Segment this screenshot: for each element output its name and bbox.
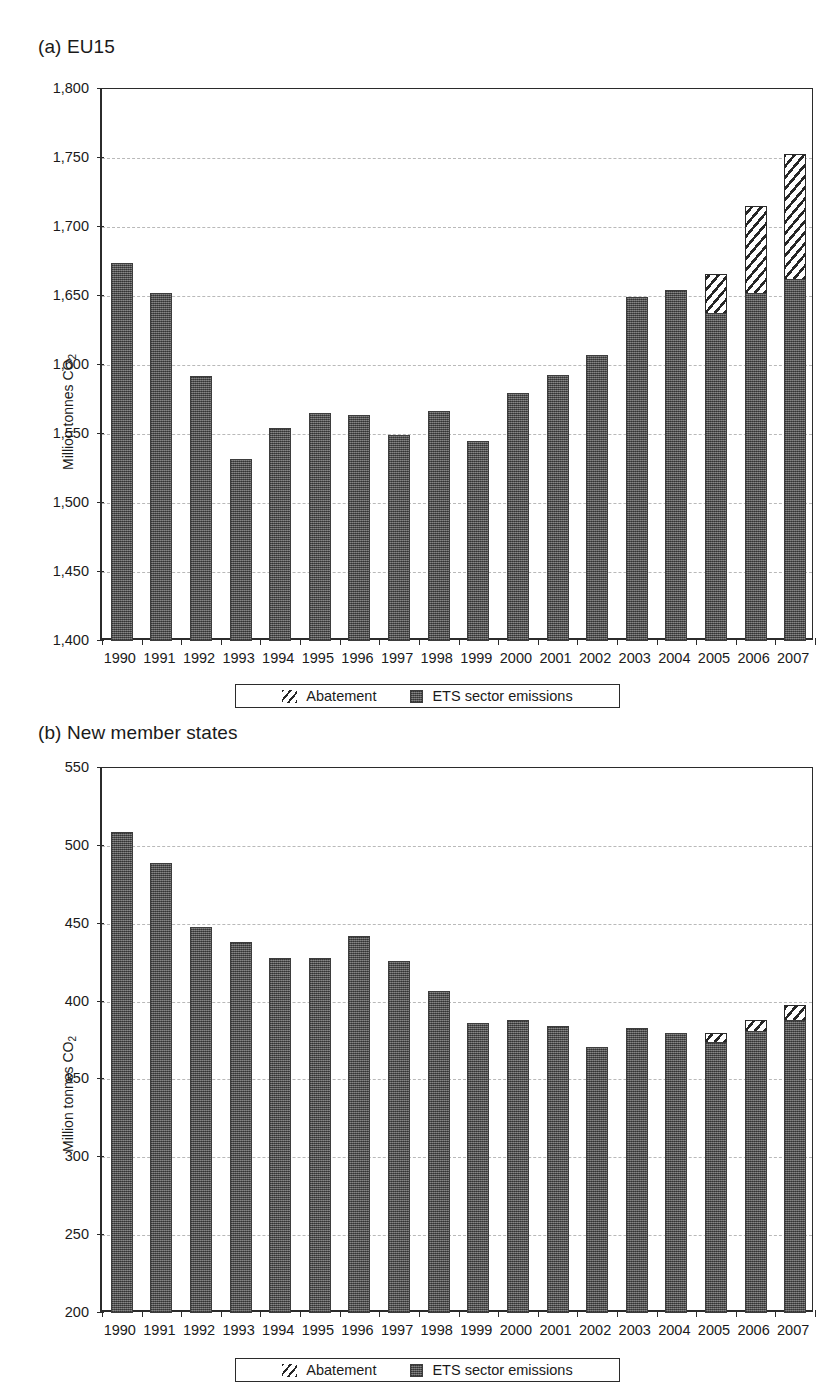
y-axis-tick-label: 300 [65, 1148, 89, 1164]
y-axis-tick-label: 200 [65, 1304, 89, 1320]
x-axis-tick-mark [815, 638, 816, 645]
bar-ets-1997 [388, 961, 410, 1313]
figure-page: (a) EU15 Million tonnes CO2 Abatement ET… [0, 0, 835, 1398]
x-axis-tick-label-2004: 2004 [658, 650, 690, 666]
x-axis-tick-mark [657, 1310, 658, 1317]
y-axis-tick-label: 1,400 [53, 632, 89, 648]
x-axis-tick-mark [617, 638, 618, 645]
x-axis-tick-label-2007: 2007 [777, 650, 809, 666]
y-axis-tick-mark [97, 1156, 104, 1157]
x-axis-tick-label-1999: 1999 [460, 650, 492, 666]
bar-ets-1990 [111, 263, 133, 641]
bar-ets-1994 [269, 428, 291, 641]
y-axis-title-subscript: 2 [67, 1036, 78, 1042]
abatement-swatch-icon [282, 1364, 297, 1377]
y-axis-tick-label: 250 [65, 1226, 89, 1242]
x-axis-tick-label-1997: 1997 [381, 650, 413, 666]
x-axis-tick-label-2000: 2000 [500, 650, 532, 666]
bar-ets-1992 [190, 927, 212, 1313]
bar-ets-2005 [705, 313, 727, 641]
y-axis-tick-mark [97, 571, 104, 572]
x-axis-tick-label-1992: 1992 [183, 650, 215, 666]
x-axis-tick-label-2004: 2004 [658, 1322, 690, 1338]
legend-item-ets: ETS sector emissions [410, 688, 572, 704]
y-axis-tick-mark [97, 767, 104, 768]
y-axis-tick-label: 1,450 [53, 563, 89, 579]
x-axis-tick-label-2006: 2006 [737, 650, 769, 666]
ets-swatch-icon [410, 690, 423, 703]
bar-ets-1998 [428, 411, 450, 641]
abatement-swatch-icon [282, 690, 297, 703]
x-axis-tick-label-2003: 2003 [619, 650, 651, 666]
x-axis-tick-mark [736, 1310, 737, 1317]
x-axis-tick-mark [498, 638, 499, 645]
y-axis-tick-mark [97, 502, 104, 503]
legend-item-ets: ETS sector emissions [410, 1362, 572, 1378]
bar-ets-1997 [388, 435, 410, 641]
y-axis-title-text: Million tonnes CO [60, 1042, 76, 1153]
x-axis-tick-mark [577, 1310, 578, 1317]
x-axis-tick-mark [459, 638, 460, 645]
legend-label-ets: ETS sector emissions [432, 1362, 572, 1378]
x-axis-tick-mark [657, 638, 658, 645]
bar-ets-1991 [150, 863, 172, 1313]
x-axis-tick-label-2002: 2002 [579, 1322, 611, 1338]
x-axis-tick-mark [142, 1310, 143, 1317]
x-axis-tick-label-1996: 1996 [341, 1322, 373, 1338]
bar-ets-2000 [507, 393, 529, 641]
x-axis-tick-label-1995: 1995 [302, 650, 334, 666]
x-axis-tick-mark [696, 638, 697, 645]
y-axis-tick-label: 500 [65, 837, 89, 853]
legend-item-abatement: Abatement [282, 1362, 376, 1378]
y-axis-tick-label: 1,600 [53, 356, 89, 372]
panel-b-y-axis-title: Million tonnes CO2 [60, 1036, 78, 1152]
y-axis-tick-mark [97, 364, 104, 365]
x-axis-tick-mark [260, 638, 261, 645]
y-axis-tick-mark [97, 226, 104, 227]
x-axis-tick-label-1990: 1990 [104, 1322, 136, 1338]
panel-b-plot-area [100, 767, 813, 1312]
ets-swatch-icon [410, 1364, 423, 1377]
bar-ets-2005 [705, 1042, 727, 1313]
bar-ets-1996 [348, 415, 370, 641]
bar-ets-1992 [190, 376, 212, 641]
bar-abatement-2007 [784, 1005, 806, 1021]
panel-a-legend: Abatement ETS sector emissions [235, 684, 620, 708]
x-axis-tick-mark [300, 1310, 301, 1317]
x-axis-tick-mark [221, 1310, 222, 1317]
bar-ets-2007 [784, 279, 806, 641]
bar-ets-1995 [309, 958, 331, 1313]
bar-ets-1995 [309, 413, 331, 641]
x-axis-tick-label-2002: 2002 [579, 650, 611, 666]
x-axis-tick-label-2005: 2005 [698, 650, 730, 666]
legend-label-abatement: Abatement [306, 1362, 376, 1378]
x-axis-tick-mark [340, 638, 341, 645]
y-axis-tick-mark [97, 845, 104, 846]
bar-ets-2006 [745, 293, 767, 641]
bar-ets-1999 [467, 1023, 489, 1313]
bar-ets-2000 [507, 1020, 529, 1313]
x-axis-tick-mark [696, 1310, 697, 1317]
y-axis-tick-mark [97, 157, 104, 158]
x-axis-tick-label-1992: 1992 [183, 1322, 215, 1338]
x-axis-tick-mark [498, 1310, 499, 1317]
bar-abatement-2006 [745, 1020, 767, 1031]
y-axis-tick-label: 1,550 [53, 425, 89, 441]
x-axis-tick-label-1991: 1991 [143, 650, 175, 666]
x-axis-tick-label-1996: 1996 [341, 650, 373, 666]
x-axis-tick-label-2006: 2006 [737, 1322, 769, 1338]
y-axis-tick-mark [97, 1234, 104, 1235]
x-axis-tick-mark [260, 1310, 261, 1317]
panel-b-legend: Abatement ETS sector emissions [235, 1358, 620, 1382]
panel-b-title: (b) New member states [38, 722, 238, 744]
bar-ets-2007 [784, 1020, 806, 1313]
legend-label-ets: ETS sector emissions [432, 688, 572, 704]
chart-panel-new-member-states: (b) New member states Million tonnes CO2… [0, 712, 835, 1398]
x-axis-tick-mark [419, 1310, 420, 1317]
y-axis-tick-label: 350 [65, 1070, 89, 1086]
bar-abatement-2005 [705, 1033, 727, 1042]
x-axis-tick-label-1993: 1993 [222, 650, 254, 666]
x-axis-tick-mark [577, 638, 578, 645]
bar-ets-1990 [111, 832, 133, 1313]
y-axis-tick-mark [97, 923, 104, 924]
